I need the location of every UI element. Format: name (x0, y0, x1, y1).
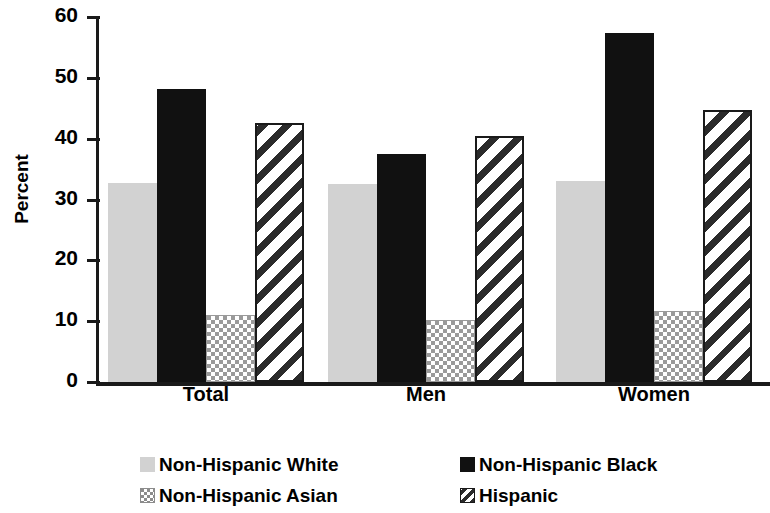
chart-legend: Non-Hispanic White Non-Hispanic Black No… (140, 449, 740, 511)
bar-total-non-hispanic-white (108, 183, 157, 382)
y-axis-title: Percent (11, 109, 33, 269)
legend-row: Non-Hispanic White Non-Hispanic Black (140, 449, 740, 480)
y-axis-tick-label: 10 (32, 307, 78, 331)
legend-row: Non-Hispanic Asian Hispanic (140, 480, 740, 511)
legend-label: Non-Hispanic Black (479, 454, 657, 476)
y-axis-tick-label: 40 (32, 125, 78, 149)
bar-total-non-hispanic-asian (206, 315, 255, 382)
bar-men-hispanic (475, 136, 524, 382)
y-axis-tick-label: 50 (32, 64, 78, 88)
bar-women-non-hispanic-black (605, 33, 654, 382)
legend-label: Non-Hispanic Asian (159, 485, 338, 507)
x-axis-label-men: Men (328, 383, 524, 406)
y-axis-tick: 30 (87, 199, 100, 202)
bar-total-non-hispanic-black (157, 89, 206, 382)
bar-total-hispanic (255, 123, 304, 382)
y-axis-tick-label: 30 (32, 186, 78, 210)
legend-label: Non-Hispanic White (159, 454, 338, 476)
bar-men-non-hispanic-asian (426, 320, 475, 382)
legend-swatch-icon (140, 457, 155, 472)
bar-chart: Percent 0102030405060 TotalMenWomen Non-… (0, 0, 770, 513)
legend-swatch-icon (460, 457, 475, 472)
bar-women-non-hispanic-white (556, 181, 605, 382)
y-axis-tick-label: 0 (32, 368, 78, 392)
y-axis-tick-label: 20 (32, 246, 78, 270)
legend-swatch-icon (140, 488, 155, 503)
legend-label: Hispanic (479, 485, 558, 507)
y-axis-tick: 50 (87, 77, 100, 80)
x-axis-label-total: Total (108, 383, 304, 406)
y-axis-tick: 20 (87, 259, 100, 262)
y-axis-tick: 40 (87, 138, 100, 141)
y-axis-tick: 60 (87, 16, 100, 19)
bar-men-non-hispanic-black (377, 154, 426, 382)
legend-swatch-icon (460, 488, 475, 503)
x-axis-label-women: Women (556, 383, 752, 406)
bar-women-hispanic (703, 110, 752, 382)
legend-item-non-hispanic-black: Non-Hispanic Black (460, 454, 740, 476)
y-axis-tick: 0 (87, 381, 100, 384)
bar-women-non-hispanic-asian (654, 311, 703, 382)
y-axis-tick: 10 (87, 320, 100, 323)
legend-item-non-hispanic-white: Non-Hispanic White (140, 454, 460, 476)
y-axis-tick-label: 60 (32, 3, 78, 27)
legend-item-non-hispanic-asian: Non-Hispanic Asian (140, 485, 460, 507)
bar-men-non-hispanic-white (328, 184, 377, 382)
legend-item-hispanic: Hispanic (460, 485, 740, 507)
plot-area: 0102030405060 (96, 17, 770, 382)
